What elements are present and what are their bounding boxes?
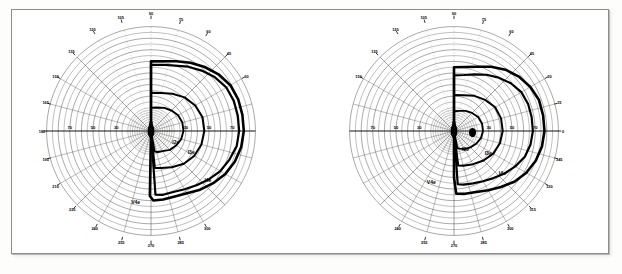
isopter-label-i2e: I2e — [462, 146, 469, 152]
grid-meridian — [380, 132, 453, 205]
polar-plot-os: 1351201059075604515024025527028530030150… — [311, 10, 610, 255]
angle-label: 75 — [179, 17, 184, 22]
angle-label: 270 — [148, 243, 155, 248]
visual-field-chart-left[interactable]: 1351201059075604515024025527028530030150… — [311, 10, 610, 255]
angle-label: 285 — [480, 240, 487, 245]
angle-label: 15 — [557, 100, 562, 105]
radius-label: 70 — [68, 125, 73, 130]
angle-label: 0 — [562, 129, 564, 134]
radius-label: 70 — [230, 125, 235, 130]
perimetry-chart-page: 1351201059075604515016518019521022524025… — [0, 0, 622, 274]
polar-plot-od: 1351201059075604515016518019521022524025… — [12, 10, 311, 255]
angle-label: 240 — [91, 226, 98, 231]
scotoma-blot-core — [452, 120, 456, 139]
angle-label: 120 — [89, 27, 96, 32]
scotoma-blot-core — [149, 120, 153, 139]
isopter-label-i4e: I4e — [204, 177, 211, 183]
angle-label: 120 — [392, 27, 399, 32]
grid-meridian — [77, 57, 150, 130]
angle-label: 165 — [42, 100, 49, 105]
chart-frame-border: 1351201059075604515016518019521022524025… — [11, 9, 609, 254]
isopter-label-v4e: V4e — [131, 199, 140, 205]
angle-label: 240 — [394, 226, 401, 231]
radius-label: 30 — [487, 125, 492, 130]
visual-field-chart-right[interactable]: 1351201059075604515016518019521022524025… — [12, 10, 311, 255]
isopter-label-i3e: I3e — [188, 149, 195, 155]
radius-label: 50 — [394, 125, 399, 130]
angle-label: 60 — [509, 29, 513, 34]
angle-label: 225 — [69, 207, 76, 212]
isopter-i4e — [454, 74, 533, 184]
grid-meridian — [380, 57, 453, 130]
isopter-label-i2e: I2e — [172, 139, 179, 145]
isopter-label-v4e: V4e — [427, 179, 436, 185]
angle-label: 270 — [451, 243, 458, 248]
isopter-label-i4e: I4e — [499, 170, 506, 176]
angle-label: 30 — [244, 74, 248, 79]
radius-label: 50 — [510, 125, 515, 130]
angle-label: 255 — [118, 240, 125, 245]
angle-label: 195 — [42, 157, 49, 162]
radius-label: 50 — [91, 125, 96, 130]
radius-label: 30 — [417, 125, 422, 130]
isopter-label-i3e: I3e — [485, 150, 492, 156]
radius-label: 50 — [207, 125, 212, 130]
angle-label: 345 — [556, 157, 563, 162]
radius-label: 30 — [184, 125, 189, 130]
angle-label: 135 — [371, 49, 378, 54]
angle-label: 30 — [547, 74, 551, 79]
angle-label: 150 — [355, 74, 362, 79]
blind-spot-marker — [469, 128, 476, 137]
angle-label: 135 — [68, 49, 75, 54]
angle-label: 150 — [52, 74, 59, 79]
angle-label: 60 — [206, 29, 210, 34]
angle-label: 300 — [507, 226, 514, 231]
radius-label: 30 — [114, 125, 119, 130]
angle-label: 75 — [482, 17, 487, 22]
radius-label: 70 — [371, 125, 376, 130]
grid-meridian — [77, 132, 150, 205]
angle-label: 285 — [177, 240, 184, 245]
angle-label: 255 — [421, 240, 428, 245]
angle-label: 300 — [204, 226, 211, 231]
